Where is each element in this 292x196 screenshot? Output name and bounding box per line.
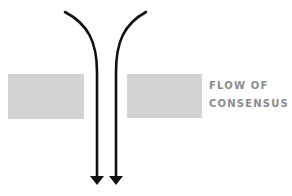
label-line-1: FLOW OF [209, 77, 289, 95]
right-flow-arrow-icon [109, 12, 146, 185]
flow-of-consensus-label: FLOW OF CONSENSUS [209, 77, 289, 113]
consensus-flow-diagram: FLOW OF CONSENSUS [0, 0, 292, 196]
label-line-2: CONSENSUS [209, 95, 289, 113]
left-flow-arrow-icon [65, 12, 104, 185]
